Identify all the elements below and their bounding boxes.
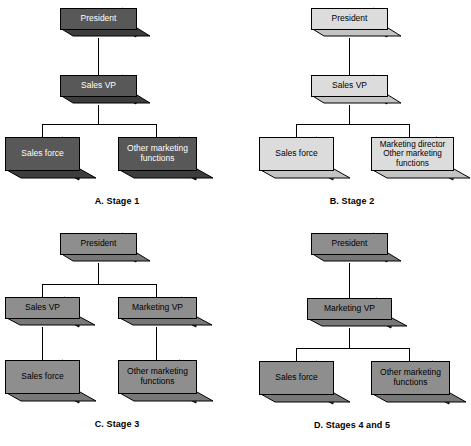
node-label: Sales VP	[330, 81, 369, 91]
node-president: President	[60, 8, 137, 30]
node-president: President	[60, 233, 137, 255]
box-front-face: Marketing director Other marketing funct…	[371, 137, 454, 171]
connector-president-stub	[98, 263, 99, 284]
box-front-face: Sales force	[5, 137, 80, 171]
panel-stage-3: President Sales VP	[0, 223, 234, 446]
box-front-face: Other marketing functions	[118, 137, 197, 171]
node-marketing-director: Marketing director Other marketing funct…	[371, 137, 454, 171]
node-sales-force: Sales force	[259, 361, 334, 395]
node-label: Sales force	[273, 373, 320, 383]
panel-stage-1: President Sales VP	[0, 0, 234, 223]
connector-sales-vp-bar	[296, 124, 409, 125]
node-label: President	[330, 14, 370, 24]
connector-marketing-vp-bar	[296, 348, 409, 349]
panel-caption: A. Stage 1	[0, 196, 234, 206]
box-front-face: Sales force	[5, 360, 80, 394]
connector-drop-marketing-director	[409, 124, 410, 137]
node-sales-vp: Sales VP	[5, 297, 80, 319]
node-sales-force: Sales force	[5, 360, 80, 394]
node-label: Sales force	[19, 149, 66, 159]
node-label: Sales force	[19, 372, 66, 382]
box-front-face: Sales VP	[311, 75, 388, 97]
node-sales-vp: Sales VP	[60, 75, 137, 97]
connector-marketing-vp-stub	[349, 328, 350, 348]
node-label: Other marketing functions	[125, 144, 190, 163]
box-front-face: Marketing VP	[118, 297, 197, 319]
connector-drop-other-marketing	[156, 124, 157, 137]
connector-president-to-marketing-vp	[349, 263, 350, 298]
node-label: Other marketing functions	[378, 368, 443, 387]
connector-drop-sales-force	[296, 348, 297, 361]
node-sales-force: Sales force	[259, 137, 334, 171]
panel-caption: C. Stage 3	[0, 419, 234, 429]
connector-sales-vp-stub	[98, 105, 99, 124]
panel-stage-1-canvas: President Sales VP	[0, 0, 234, 223]
panel-caption: B. Stage 2	[235, 196, 469, 206]
connector-drop-sales-vp	[42, 284, 43, 297]
connector-sales-vp-to-sales-force	[42, 327, 43, 360]
node-label: President	[79, 239, 119, 249]
node-label: Sales VP	[23, 303, 62, 313]
box-front-face: President	[60, 233, 137, 255]
node-label: Marketing VP	[322, 304, 377, 314]
box-front-face: Sales VP	[5, 297, 80, 319]
node-president: President	[311, 233, 388, 255]
node-other-marketing-functions: Other marketing functions	[118, 137, 197, 171]
connector-drop-marketing-vp	[156, 284, 157, 297]
node-other-marketing-functions: Other marketing functions	[371, 361, 450, 395]
box-front-face: Sales VP	[60, 75, 137, 97]
node-marketing-vp: Marketing VP	[118, 297, 197, 319]
box-front-face: President	[311, 233, 388, 255]
box-front-face: President	[311, 8, 388, 30]
connector-drop-other-marketing	[409, 348, 410, 361]
node-label: Other marketing functions	[125, 367, 190, 386]
box-front-face: Sales force	[259, 137, 334, 171]
node-label: Marketing VP	[130, 303, 185, 313]
connector-president-bar	[42, 284, 156, 285]
connector-president-to-sales-vp	[98, 38, 99, 75]
connector-sales-vp-stub	[349, 105, 350, 124]
panel-stage-2: President Sales VP	[235, 0, 469, 223]
panel-stages-4-and-5-canvas: President Marketing VP	[235, 223, 469, 446]
node-label: President	[330, 239, 370, 249]
box-front-face: Other marketing functions	[118, 360, 197, 394]
connector-sales-vp-bar	[42, 124, 156, 125]
panel-stages-4-and-5: President Marketing VP	[235, 223, 469, 446]
node-label: Marketing director Other marketing funct…	[378, 140, 448, 168]
box-front-face: Other marketing functions	[371, 361, 450, 395]
node-label: Sales force	[273, 149, 320, 159]
panel-stage-3-canvas: President Sales VP	[0, 223, 234, 446]
connector-marketing-vp-to-other-marketing	[156, 327, 157, 360]
box-front-face: Sales force	[259, 361, 334, 395]
node-sales-vp: Sales VP	[311, 75, 388, 97]
connector-president-to-sales-vp	[349, 38, 350, 75]
node-other-marketing-functions: Other marketing functions	[118, 360, 197, 394]
node-marketing-vp: Marketing VP	[307, 298, 392, 320]
panel-stage-2-canvas: President Sales VP	[235, 0, 469, 223]
connector-drop-sales-force	[42, 124, 43, 137]
node-president: President	[311, 8, 388, 30]
node-label: President	[79, 14, 119, 24]
connector-drop-sales-force	[296, 124, 297, 137]
node-label: Sales VP	[79, 81, 118, 91]
box-front-face: Marketing VP	[307, 298, 392, 320]
box-front-face: President	[60, 8, 137, 30]
node-sales-force: Sales force	[5, 137, 80, 171]
panel-caption: D. Stages 4 and 5	[235, 420, 469, 430]
